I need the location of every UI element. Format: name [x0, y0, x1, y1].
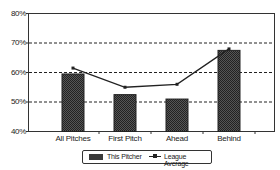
bar [218, 50, 240, 131]
line-marker [228, 47, 231, 50]
line-marker [72, 67, 75, 70]
chart-plot [0, 0, 280, 170]
y-tick-40: 40% [0, 128, 26, 136]
bar-swatch-icon [89, 154, 103, 160]
legend-bar-label: This Pitcher [107, 153, 142, 160]
x-label-behind: Behind [203, 134, 255, 143]
legend-line-label: League Average [164, 153, 211, 167]
y-tick-80: 80% [0, 10, 26, 18]
line-marker [176, 83, 179, 86]
bar [114, 95, 136, 132]
legend: This Pitcher League Average [82, 150, 212, 164]
x-label-ahead: Ahead [151, 134, 203, 143]
marker-swatch-icon [153, 154, 157, 158]
bar [166, 99, 188, 131]
y-tick-70: 70% [0, 39, 26, 47]
x-label-first-pitch: First Pitch [99, 134, 151, 143]
y-tick-50: 50% [0, 98, 26, 106]
x-label-all-pitches: All Pitches [47, 134, 99, 143]
bar [62, 74, 84, 132]
line-marker [124, 86, 127, 89]
y-tick-60: 60% [0, 69, 26, 77]
